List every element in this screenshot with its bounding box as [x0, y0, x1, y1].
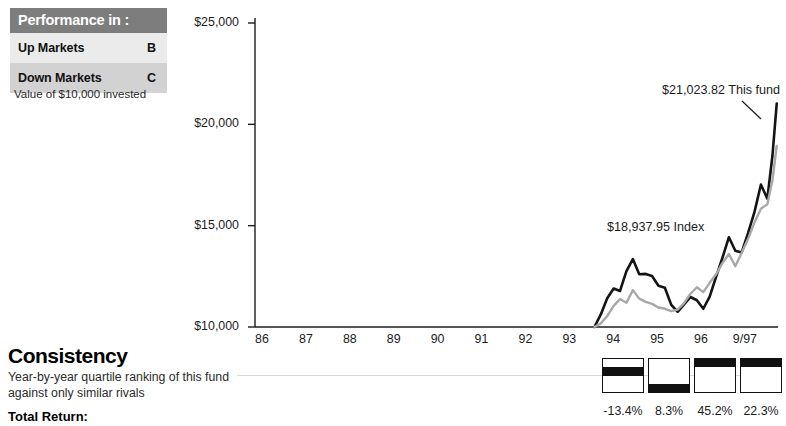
quartile-segment-2	[695, 367, 735, 375]
x-axis-tick-label: 94	[593, 332, 633, 346]
x-axis-tick-label: 92	[505, 332, 545, 346]
quartile-segment-3	[695, 376, 735, 384]
x-axis-tick-label: 90	[418, 332, 458, 346]
quartile-segment-3	[741, 376, 781, 384]
consistency-description: Year-by-year quartile ranking of this fu…	[8, 370, 238, 401]
x-axis-tick-label: 87	[286, 332, 326, 346]
quartile-segment-1	[695, 359, 735, 367]
quartile-segment-1	[603, 359, 643, 367]
quartile-rank-box	[740, 358, 782, 393]
y-axis-tick-label: $10,000	[169, 319, 239, 333]
x-axis-tick-label: 96	[681, 332, 721, 346]
value-of-investment-note: Value of $10,000 invested	[14, 88, 146, 100]
quartile-return-label: 22.3%	[734, 404, 786, 418]
quartile-segment-2	[649, 367, 689, 375]
quartile-segment-4	[741, 384, 781, 392]
quartile-segment-4	[649, 384, 689, 392]
quartile-rank-box	[602, 358, 644, 393]
quartile-segment-1	[741, 359, 781, 367]
quartile-segment-4	[695, 384, 735, 392]
performance-table-header-row: Performance in :	[10, 8, 167, 33]
quartile-rank-box	[648, 358, 690, 393]
up-markets-grade: B	[133, 33, 167, 63]
series-line-this-fund	[594, 104, 776, 327]
chart-annotation-index: $18,937.95 Index	[607, 220, 704, 234]
quartile-segment-4	[603, 384, 643, 392]
up-markets-label: Up Markets	[10, 33, 133, 63]
quartile-segment-1	[649, 359, 689, 367]
y-axis-tick-label: $15,000	[169, 218, 239, 232]
quartile-rank-box	[694, 358, 736, 393]
y-axis-tick-label: $25,000	[169, 15, 239, 29]
total-return-label: Total Return:	[8, 409, 88, 424]
this-fund-annotation-leader	[742, 101, 761, 119]
x-axis-tick-label: 93	[549, 332, 589, 346]
consistency-heading: Consistency	[8, 344, 127, 368]
x-axis-tick-label: 91	[462, 332, 502, 346]
series-line-index	[594, 146, 776, 327]
quartile-segment-3	[649, 376, 689, 384]
x-axis-tick-label: 89	[374, 332, 414, 346]
performance-table-header: Performance in :	[10, 8, 167, 33]
x-axis-tick-label: 88	[330, 332, 370, 346]
quartile-segment-2	[603, 367, 643, 375]
performance-table: Performance in : Up Markets B Down Marke…	[10, 8, 167, 93]
x-axis-tick-label: 86	[242, 332, 282, 346]
x-axis-tick-label: 9/97	[725, 332, 765, 346]
quartile-segment-2	[741, 367, 781, 375]
performance-row-up-markets: Up Markets B	[10, 33, 167, 63]
chart-annotation-this-fund: $21,023.82 This fund	[662, 83, 780, 97]
y-axis-tick-label: $20,000	[169, 116, 239, 130]
quartile-segment-3	[603, 376, 643, 384]
x-axis-tick-label: 95	[637, 332, 677, 346]
